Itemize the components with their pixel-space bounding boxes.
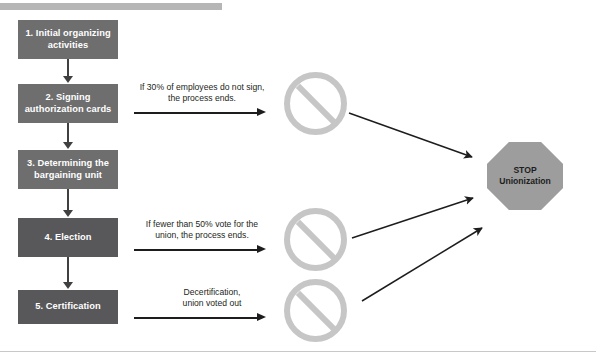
prohibition-sign-2-icon <box>284 208 347 271</box>
connector-3-4-line <box>67 189 69 211</box>
branch-arrow-2-line <box>134 249 258 251</box>
diagonal-arrow-1 <box>349 113 472 157</box>
process-box-2[interactable]: 2. Signing authorization cards <box>18 84 118 123</box>
branch-label-2-line1: If fewer than 50% vote for the <box>124 219 280 230</box>
process-box-3[interactable]: 3. Determining the bargaining unit <box>18 150 118 189</box>
stop-label-line2: Unionization <box>499 176 551 187</box>
connector-4-5-arrowhead <box>63 282 73 289</box>
branch-label-2-line2: union, the process ends. <box>124 230 280 241</box>
bottom-divider-line <box>0 351 596 352</box>
connector-2-3-line <box>67 123 69 143</box>
branch-label-3: Decertification, union voted out <box>147 287 277 309</box>
connector-2-3-arrowhead <box>63 142 73 149</box>
prohibition-sign-3-slash <box>295 290 335 330</box>
branch-arrow-3-line <box>134 317 258 319</box>
stop-unionization-label: STOP Unionization <box>482 137 568 215</box>
prohibition-sign-2-slash <box>295 219 335 259</box>
branch-label-1-line2: the process ends. <box>124 93 280 104</box>
prohibition-sign-3-icon <box>284 279 347 342</box>
stop-label-line1: STOP <box>513 165 536 176</box>
connector-1-2-line <box>67 59 69 77</box>
process-box-4-label: 4. Election <box>44 232 91 244</box>
process-box-2-label: 2. Signing authorization cards <box>22 92 114 115</box>
connector-3-4-arrowhead <box>63 210 73 217</box>
prohibition-sign-1-icon <box>284 72 347 135</box>
branch-label-1-line1: If 30% of employees do not sign, <box>124 82 280 93</box>
branch-label-3-line1: Decertification, <box>147 287 277 298</box>
branch-arrow-1-line <box>134 112 258 114</box>
branch-arrow-2-head <box>257 245 266 253</box>
prohibition-sign-1-slash <box>295 83 335 123</box>
branch-label-3-line2: union voted out <box>147 298 277 309</box>
diagonal-arrow-3 <box>362 228 482 301</box>
process-box-5-label: 5. Certification <box>35 301 100 313</box>
branch-arrow-1-head <box>257 108 266 116</box>
connector-1-2-arrowhead <box>63 76 73 83</box>
diagonal-arrow-2 <box>352 198 473 238</box>
process-box-1-label: 1. Initial organizing activities <box>22 28 114 51</box>
process-box-3-label: 3. Determining the bargaining unit <box>22 158 114 181</box>
top-divider-bar <box>0 3 222 10</box>
branch-label-2: If fewer than 50% vote for the union, th… <box>124 219 280 241</box>
branch-label-1: If 30% of employees do not sign, the pro… <box>124 82 280 104</box>
stop-unionization-node[interactable]: STOP Unionization <box>482 137 568 215</box>
flowchart-canvas: 1. Initial organizing activities 2. Sign… <box>0 0 596 363</box>
branch-arrow-3-head <box>257 313 266 321</box>
process-box-4[interactable]: 4. Election <box>18 218 118 257</box>
process-box-1[interactable]: 1. Initial organizing activities <box>18 20 118 59</box>
process-box-5[interactable]: 5. Certification <box>18 290 118 324</box>
connector-4-5-line <box>67 257 69 283</box>
